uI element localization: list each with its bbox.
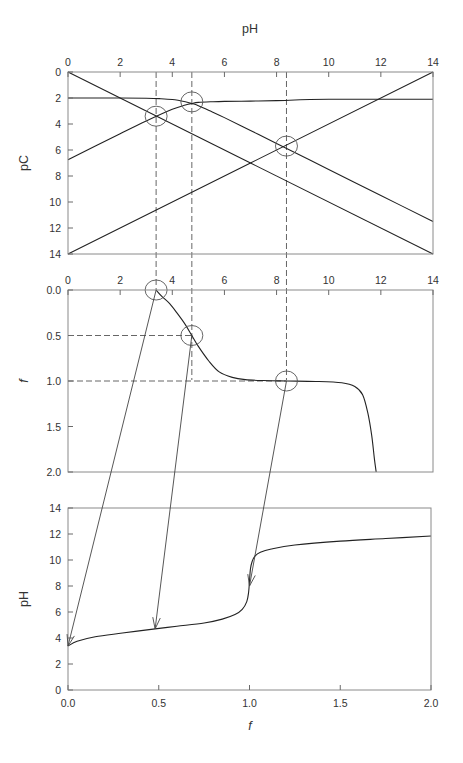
- x-tick-label: 0.0: [61, 697, 76, 709]
- y-tick-label: 14: [49, 248, 61, 260]
- x-tick-label: 4: [169, 274, 175, 286]
- x-tick-label: 2.0: [424, 697, 439, 709]
- projection-arrow-line: [250, 381, 287, 586]
- y-tick-label: 0.5: [46, 330, 61, 342]
- y-tick-label: 10: [49, 196, 61, 208]
- x-tick-label: 14: [427, 274, 439, 286]
- y-tick-label: 0: [55, 66, 61, 78]
- p3-xlabel: f: [248, 719, 253, 733]
- y-tick-label: 1.0: [46, 375, 61, 387]
- y-tick-label: 0.0: [46, 284, 61, 296]
- series-ha-line: [68, 98, 433, 222]
- projection-arrows: [67, 290, 286, 646]
- x-tick-label: 10: [323, 274, 335, 286]
- x-tick-label: 6: [222, 56, 228, 68]
- p3-series-group: [68, 536, 431, 646]
- y-tick-label: 12: [49, 222, 61, 234]
- x-tick-label: 1.5: [333, 697, 348, 709]
- x-tick-label: 12: [375, 56, 387, 68]
- p2-y-ticks: 0.00.51.01.52.0: [46, 284, 73, 478]
- y-tick-label: 6: [55, 144, 61, 156]
- p3-x-ticks: 0.00.51.01.52.0: [61, 685, 439, 709]
- y-tick-label: 0: [55, 684, 61, 696]
- p1-ylabel: pC: [17, 155, 31, 171]
- p1-x-ticks: 02468101214: [65, 56, 439, 77]
- y-tick-label: 2.0: [46, 466, 61, 478]
- p1-guide-lines: [156, 72, 286, 380]
- y-tick-label: 12: [49, 528, 61, 540]
- series-a--line: [68, 99, 433, 160]
- y-tick-label: 4: [55, 632, 61, 644]
- x-tick-label: 1.0: [242, 697, 257, 709]
- x-tick-label: 12: [375, 274, 387, 286]
- projection-arrow-line: [68, 290, 156, 646]
- p1-xlabel: pH: [242, 22, 258, 36]
- p3-frame: [68, 508, 431, 690]
- x-tick-label: 8: [274, 274, 280, 286]
- p2-x-ticks: 02468101214: [65, 274, 439, 295]
- panel-ph-vs-f: f pH 0.00.51.01.52.0 02468101214: [17, 502, 438, 733]
- series-titration-curve-line: [68, 536, 431, 646]
- x-tick-label: 10: [323, 56, 335, 68]
- x-tick-label: 14: [427, 56, 439, 68]
- y-tick-label: 4: [55, 118, 61, 130]
- p2-ylabel: f: [17, 378, 31, 383]
- y-tick-label: 14: [49, 502, 61, 514]
- x-tick-label: 0.5: [151, 697, 166, 709]
- x-tick-label: 4: [169, 56, 175, 68]
- x-tick-label: 0: [65, 274, 71, 286]
- x-tick-label: 2: [117, 274, 123, 286]
- panel-f-vs-ph: f 02468101214 0.00.51.01.52.0: [17, 274, 439, 478]
- p3-ylabel: pH: [17, 591, 31, 607]
- projection-arrow-line: [155, 336, 192, 629]
- p2-guide-lines: [68, 336, 286, 382]
- figure: pH pC 02468101214 02468101214 f 02468101…: [0, 0, 463, 763]
- x-tick-label: 6: [222, 274, 228, 286]
- p3-y-ticks: 02468101214: [49, 502, 73, 696]
- y-tick-label: 10: [49, 554, 61, 566]
- x-tick-label: 2: [117, 56, 123, 68]
- y-tick-label: 1.5: [46, 421, 61, 433]
- x-tick-label: 0: [65, 56, 71, 68]
- panel-pc-vs-ph: pH pC 02468101214 02468101214: [17, 22, 439, 380]
- y-tick-label: 8: [55, 580, 61, 592]
- x-tick-label: 8: [274, 56, 280, 68]
- y-tick-label: 2: [55, 658, 61, 670]
- p1-series-group: [68, 72, 433, 254]
- y-tick-label: 2: [55, 92, 61, 104]
- p1-y-ticks: 02468101214: [49, 66, 73, 260]
- y-tick-label: 6: [55, 606, 61, 618]
- y-tick-label: 8: [55, 170, 61, 182]
